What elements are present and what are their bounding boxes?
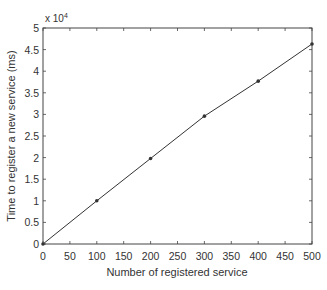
- y-tick-label: 4.5: [24, 44, 39, 56]
- data-point-marker: [256, 79, 260, 83]
- data-point-marker: [41, 242, 45, 246]
- y-tick-label: 0: [33, 238, 39, 250]
- x-tick-label: 500: [303, 250, 321, 262]
- y-multiplier-label: x 104: [45, 12, 68, 24]
- data-point-marker: [203, 114, 207, 118]
- x-tick-label: 0: [40, 250, 46, 262]
- x-tick-labels: 050100150200250300350400450500: [40, 250, 321, 262]
- x-tick-label: 150: [115, 250, 133, 262]
- x-tick-label: 50: [64, 250, 76, 262]
- data-point-marker: [95, 199, 99, 203]
- line-chart: 050100150200250300350400450500 00.511.52…: [0, 0, 327, 290]
- data-point-marker: [310, 42, 314, 46]
- data-series: [41, 42, 314, 246]
- x-tick-label: 400: [249, 250, 267, 262]
- y-tick-label: 4: [33, 65, 39, 77]
- x-axis-label: Number of registered service: [106, 266, 247, 278]
- y-tick-label: 1: [33, 195, 39, 207]
- x-tick-label: 450: [276, 250, 294, 262]
- y-tick-label: 2: [33, 152, 39, 164]
- y-tick-label: 3: [33, 108, 39, 120]
- y-tick-label: 0.5: [24, 216, 39, 228]
- data-point-marker: [149, 157, 153, 161]
- x-tick-label: 100: [88, 250, 106, 262]
- y-tick-labels: 00.511.522.533.544.55: [24, 22, 39, 250]
- x-tick-label: 200: [142, 250, 160, 262]
- series-line: [43, 44, 312, 244]
- x-tick-label: 350: [223, 250, 241, 262]
- x-tick-label: 250: [169, 250, 187, 262]
- y-tick-label: 1.5: [24, 173, 39, 185]
- y-tick-label: 3.5: [24, 87, 39, 99]
- x-tick-label: 300: [196, 250, 214, 262]
- y-tick-label: 5: [33, 22, 39, 34]
- y-axis-label: Time to register a new service (ms): [5, 50, 17, 221]
- y-tick-label: 2.5: [24, 130, 39, 142]
